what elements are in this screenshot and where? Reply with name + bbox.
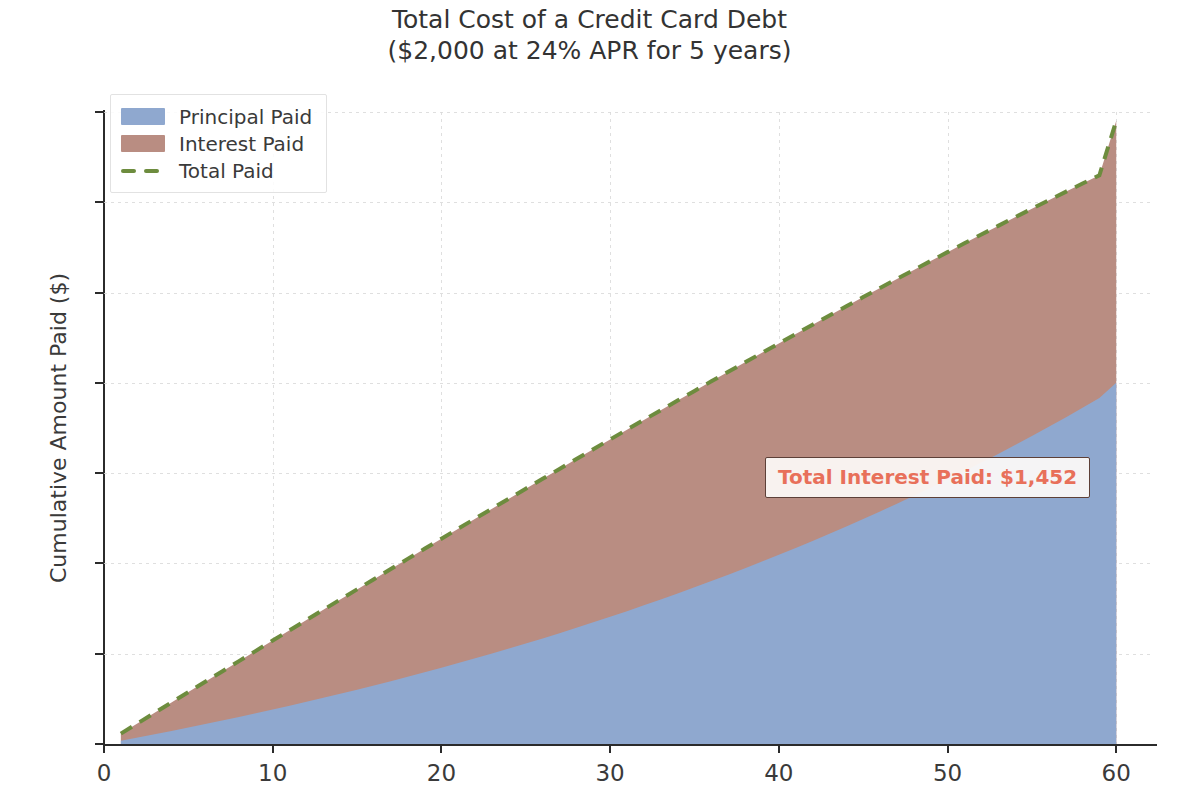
x-axis-spine <box>103 744 1157 746</box>
y-axis-tick <box>95 562 104 564</box>
plot-area: 0500100015002000250030003500010203040506… <box>104 112 1150 744</box>
total-interest-annotation: Total Interest Paid: $1,452 <box>765 457 1090 498</box>
chart-legend[interactable]: Principal Paid Interest Paid Total Paid <box>110 94 327 193</box>
x-axis-tick-label: 40 <box>764 760 793 786</box>
chart-figure: Total Cost of a Credit Card Debt ($2,000… <box>0 0 1179 804</box>
x-axis-tick <box>440 744 442 753</box>
legend-label-principal-paid: Principal Paid <box>179 105 312 129</box>
chart-title: Total Cost of a Credit Card Debt ($2,000… <box>0 4 1179 66</box>
legend-label-total-paid: Total Paid <box>179 159 274 183</box>
chart-title-line-1: Total Cost of a Credit Card Debt <box>0 4 1179 35</box>
x-axis-tick-label: 60 <box>1102 760 1131 786</box>
x-axis-tick <box>609 744 611 753</box>
legend-swatch-principal-paid <box>121 108 165 125</box>
x-axis-tick <box>103 744 105 753</box>
stacked-area-series <box>104 112 1150 744</box>
y-axis-tick <box>95 292 104 294</box>
y-axis-label: Cumulative Amount Paid ($) <box>46 273 71 583</box>
y-axis-tick <box>95 472 104 474</box>
x-axis-tick-label: 50 <box>933 760 962 786</box>
chart-title-line-2: ($2,000 at 24% APR for 5 years) <box>0 35 1179 66</box>
x-axis-tick-label: 0 <box>97 760 112 786</box>
legend-item-total-paid[interactable]: Total Paid <box>121 157 312 184</box>
y-axis-tick <box>95 111 104 113</box>
x-axis-tick <box>778 744 780 753</box>
x-axis-tick-label: 10 <box>258 760 287 786</box>
x-axis-tick <box>272 744 274 753</box>
legend-item-principal-paid[interactable]: Principal Paid <box>121 103 312 130</box>
x-axis-tick <box>1115 744 1117 753</box>
x-axis-tick-label: 30 <box>595 760 624 786</box>
y-axis-tick <box>95 201 104 203</box>
y-axis-tick <box>95 653 104 655</box>
y-axis-tick <box>95 382 104 384</box>
total-interest-annotation-text: Total Interest Paid: $1,452 <box>778 465 1077 489</box>
x-axis-tick <box>947 744 949 753</box>
x-axis-tick-label: 20 <box>427 760 456 786</box>
legend-item-interest-paid[interactable]: Interest Paid <box>121 130 312 157</box>
legend-swatch-total-paid <box>121 162 165 179</box>
legend-label-interest-paid: Interest Paid <box>179 132 304 156</box>
legend-swatch-interest-paid <box>121 135 165 152</box>
